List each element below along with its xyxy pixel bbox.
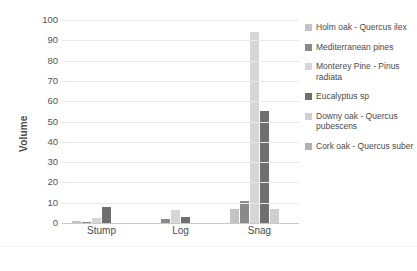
y-axis-tick-10: 10 xyxy=(32,198,58,208)
gridline-10 xyxy=(62,203,299,204)
legend-swatch-icon-4 xyxy=(305,113,312,120)
legend-label-5: Cork oak - Quercus suber xyxy=(316,141,413,152)
gridline-0 xyxy=(62,223,299,224)
legend-swatch-icon-3 xyxy=(305,93,312,100)
bar-snag-series-0[interactable] xyxy=(230,209,239,223)
bar-snag-series-4[interactable] xyxy=(270,209,279,223)
gridline-100 xyxy=(62,20,299,21)
legend-label-4: Downy oak - Quercus pubescens xyxy=(316,111,415,132)
figure-container: Volume 1009080706050403020100 StumpLogSn… xyxy=(0,0,417,271)
gridline-80 xyxy=(62,61,299,62)
x-axis-tick-labels: StumpLogSnag xyxy=(62,225,299,241)
gridline-70 xyxy=(62,81,299,82)
legend-item-4[interactable]: Downy oak - Quercus pubescens xyxy=(305,111,415,132)
x-axis-label-log: Log xyxy=(141,225,220,241)
legend-swatch-icon-5 xyxy=(305,143,312,150)
y-axis-tick-labels: 1009080706050403020100 xyxy=(30,20,58,223)
y-axis-tick-100: 100 xyxy=(32,15,58,25)
legend-swatch-icon-1 xyxy=(305,44,312,51)
legend-item-2[interactable]: Monterey Pine - Pinus radiata xyxy=(305,61,415,82)
bar-snag-series-1[interactable] xyxy=(240,201,249,223)
y-axis-tick-40: 40 xyxy=(32,137,58,147)
gridline-60 xyxy=(62,101,299,102)
y-axis-tick-0: 0 xyxy=(32,218,58,228)
x-axis-label-stump: Stump xyxy=(62,225,141,241)
legend-label-3: Eucalyptus sp xyxy=(316,91,369,102)
legend-label-0: Holm oak - Quercus ilex xyxy=(316,22,407,33)
bar-stump-series-3[interactable] xyxy=(102,207,111,223)
y-axis-tick-30: 30 xyxy=(32,157,58,167)
gridline-50 xyxy=(62,122,299,123)
y-axis-tick-20: 20 xyxy=(32,178,58,188)
figure-caption xyxy=(0,255,417,271)
legend-label-2: Monterey Pine - Pinus radiata xyxy=(316,61,415,82)
bar-log-series-2[interactable] xyxy=(171,210,180,223)
bar-snag-series-3[interactable] xyxy=(260,111,269,223)
y-axis-tick-80: 80 xyxy=(32,56,58,66)
gridline-90 xyxy=(62,40,299,41)
chart-legend: Holm oak - Quercus ilexMediterranean pin… xyxy=(305,22,415,160)
gridline-40 xyxy=(62,142,299,143)
gridline-30 xyxy=(62,162,299,163)
legend-swatch-icon-2 xyxy=(305,63,312,70)
legend-item-3[interactable]: Eucalyptus sp xyxy=(305,91,415,102)
divider xyxy=(0,246,417,247)
y-axis-tick-50: 50 xyxy=(32,117,58,127)
y-axis-tick-90: 90 xyxy=(32,36,58,46)
legend-label-1: Mediterranean pines xyxy=(316,42,394,53)
legend-item-5[interactable]: Cork oak - Quercus suber xyxy=(305,141,415,152)
y-axis-tick-70: 70 xyxy=(32,76,58,86)
plot-area xyxy=(62,20,299,223)
legend-swatch-icon-0 xyxy=(305,24,312,31)
legend-item-0[interactable]: Holm oak - Quercus ilex xyxy=(305,22,415,33)
x-axis-label-snag: Snag xyxy=(220,225,299,241)
y-axis-tick-60: 60 xyxy=(32,96,58,106)
legend-item-1[interactable]: Mediterranean pines xyxy=(305,42,415,53)
gridline-20 xyxy=(62,182,299,183)
